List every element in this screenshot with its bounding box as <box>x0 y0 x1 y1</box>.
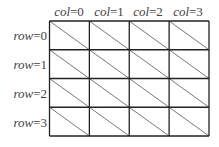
cell-diagonal <box>169 79 209 108</box>
cell-diagonal <box>89 79 129 108</box>
cell-diagonal <box>169 107 209 136</box>
cell-diagonal <box>129 79 169 108</box>
column-labels: col=0 col=1 col=2 col=3 <box>54 4 203 19</box>
cell-diagonal <box>50 107 90 136</box>
col-label-0: col=0 <box>54 4 84 19</box>
grid-diagram: col=0 col=1 col=2 col=3 row=0 row=1 row=… <box>0 0 219 147</box>
cell-diagonal <box>50 21 90 50</box>
cell-diagonal <box>50 50 90 79</box>
col-label-1: col=1 <box>94 4 124 19</box>
cell-diagonal <box>89 50 129 79</box>
cell-diagonal <box>89 21 129 50</box>
row-labels: row=0 row=1 row=2 row=3 <box>13 28 47 130</box>
row-label-1: row=1 <box>13 57 47 72</box>
col-label-3: col=3 <box>173 4 203 19</box>
row-label-2: row=2 <box>13 86 47 101</box>
cell-diagonal <box>129 21 169 50</box>
row-label-3: row=3 <box>13 115 47 130</box>
row-label-0: row=0 <box>13 28 47 43</box>
cell-diagonal <box>129 50 169 79</box>
cell-diagonal <box>89 107 129 136</box>
cell-diagonal <box>169 50 209 79</box>
cell-diagonal <box>50 79 90 108</box>
cell-diagonal <box>129 107 169 136</box>
col-label-2: col=2 <box>133 4 163 19</box>
cell-diagonal <box>169 21 209 50</box>
